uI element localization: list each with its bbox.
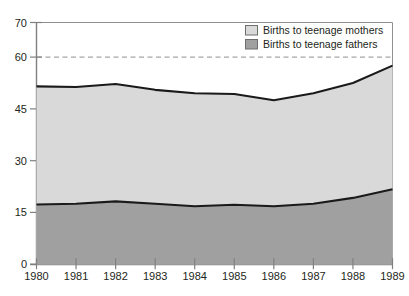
x-tick-label: 1988 xyxy=(341,270,365,282)
x-tick-label: 1989 xyxy=(380,270,404,282)
y-tick-label: 45 xyxy=(15,103,27,115)
y-tick-label: 70 xyxy=(15,17,27,29)
legend-label-mothers: Births to teenage mothers xyxy=(263,24,383,36)
x-tick-label: 1982 xyxy=(103,270,127,282)
x-tick-label: 1981 xyxy=(64,270,88,282)
x-tick-label: 1983 xyxy=(143,270,167,282)
legend-label-fathers: Births to teenage fathers xyxy=(263,38,377,50)
x-tick-label: 1984 xyxy=(182,270,206,282)
stacked-area-chart: 70 60 45 30 15 0 19801981198219831984198… xyxy=(0,0,409,296)
x-tick-label: 1980 xyxy=(24,270,48,282)
y-tick-label: 60 xyxy=(15,51,27,63)
y-tick-label: 15 xyxy=(15,206,27,218)
y-tick-label: 30 xyxy=(15,155,27,167)
x-tick-label: 1985 xyxy=(222,270,246,282)
x-tick-label: 1987 xyxy=(301,270,325,282)
x-tick-label: 1986 xyxy=(262,270,286,282)
chart-svg: 70 60 45 30 15 0 19801981198219831984198… xyxy=(0,0,409,296)
legend-swatch-mothers xyxy=(246,26,258,36)
legend-swatch-fathers xyxy=(246,40,258,50)
y-tick-label: 0 xyxy=(21,258,27,270)
